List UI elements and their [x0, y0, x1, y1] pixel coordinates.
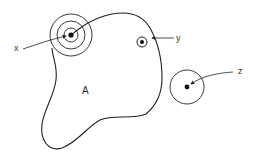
label-z: z — [238, 67, 243, 76]
label-x: x — [14, 44, 19, 53]
label-region-a: A — [82, 86, 89, 96]
region-a-boundary — [42, 13, 162, 149]
y-point-dot — [140, 40, 144, 44]
point-x-group — [23, 14, 92, 56]
x-point-dot — [68, 32, 73, 37]
z-point-dot — [185, 85, 190, 90]
diagram-canvas — [0, 0, 256, 157]
point-z-group — [170, 70, 233, 104]
label-y: y — [176, 34, 181, 43]
